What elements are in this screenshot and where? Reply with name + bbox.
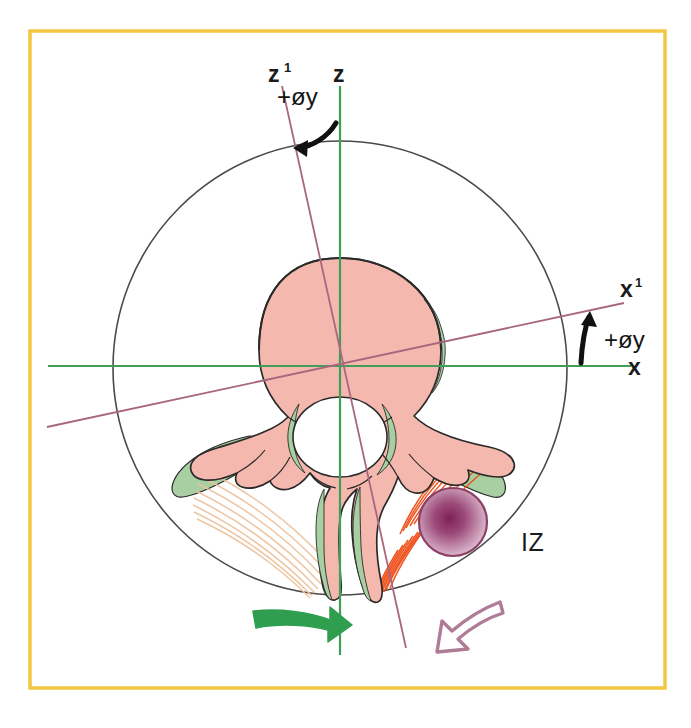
angle-arc-right <box>581 311 597 363</box>
angle-arc-top <box>293 123 336 157</box>
muscle-fibers-passive-left <box>193 470 330 598</box>
angle-label-right: +øy <box>604 326 645 353</box>
figure-root: z 1 z +øy x 1 +øy x IZ <box>0 0 691 728</box>
vertebra-rotation-diagram: z 1 z +øy x 1 +øy x IZ <box>0 0 691 728</box>
x-prime-axis-label-superscript: 1 <box>635 275 642 290</box>
z-axis-label: z <box>333 61 345 87</box>
angle-label-top: +øy <box>277 83 318 110</box>
x-axis-label: x <box>628 354 641 380</box>
z-prime-axis-label-superscript: 1 <box>284 60 291 75</box>
trigger-point-nodule <box>419 488 487 556</box>
x-prime-axis-label: x <box>620 276 633 302</box>
iz-region-label: IZ <box>521 528 544 556</box>
purple-motion-arrow <box>437 602 503 652</box>
green-motion-arrow <box>253 607 352 642</box>
vertebra-illustration <box>172 258 514 602</box>
